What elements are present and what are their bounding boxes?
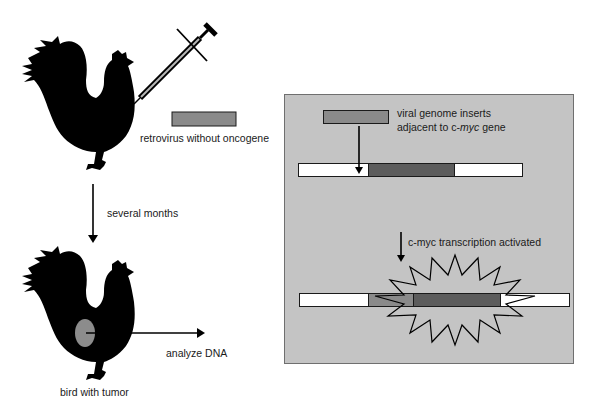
- starburst-icon: [0, 0, 590, 411]
